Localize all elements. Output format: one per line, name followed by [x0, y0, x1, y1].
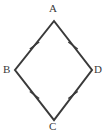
tick-mark-side-ab — [30, 42, 39, 49]
vertex-label-a: A — [49, 3, 57, 14]
geometry-figure: A B C D — [0, 0, 108, 136]
rhombus-outline — [15, 21, 92, 120]
tick-mark-side-ad — [68, 42, 77, 49]
vertex-label-b: B — [3, 64, 10, 75]
vertex-label-c: C — [49, 121, 56, 132]
rhombus-diagram-svg — [0, 0, 108, 136]
tick-mark-side-cd — [68, 92, 77, 99]
tick-mark-side-bc — [30, 92, 39, 99]
vertex-label-d: D — [94, 64, 102, 75]
